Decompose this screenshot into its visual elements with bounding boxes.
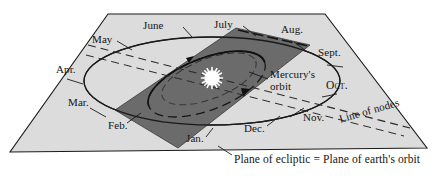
month-label-jul: July [214, 19, 233, 31]
month-label-mar: Mar. [68, 97, 89, 109]
month-label-aug: Aug. [281, 24, 303, 36]
month-label-jan: Jan. [186, 133, 204, 145]
month-label-sept: Sept. [318, 47, 341, 59]
month-label-may: May [92, 34, 112, 46]
mercury-orbit-diagram: Jan. Feb. Mar. Apr. May June July Aug. S… [0, 0, 435, 178]
month-label-dec: Dec. [244, 123, 265, 135]
month-label-jun: June [143, 20, 164, 32]
month-label-apr: Apr. [56, 64, 76, 76]
month-label-nov: Nov. [303, 112, 324, 124]
mercury-orbit-label: Mercury's orbit [270, 68, 330, 93]
month-label-feb: Feb. [108, 120, 128, 132]
ecliptic-plane-caption: Plane of ecliptic = Plane of earth's orb… [234, 153, 420, 165]
sun-symbol [202, 68, 223, 89]
